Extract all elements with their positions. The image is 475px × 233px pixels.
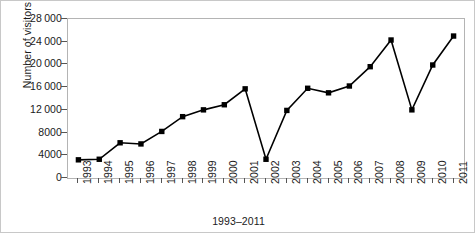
x-tick-label: 2011 (457, 161, 469, 184)
x-tick-label: 1995 (123, 160, 135, 184)
x-tick-label: 1994 (102, 160, 114, 184)
x-tick-label: 1998 (186, 160, 198, 184)
x-tick-label: 1999 (206, 160, 218, 184)
x-tick-label: 2001 (248, 160, 260, 184)
x-tick-label: 1997 (165, 160, 177, 184)
x-tick-label: 2010 (436, 160, 448, 184)
x-tick-label: 2007 (373, 160, 385, 184)
x-tick-label: 2003 (290, 160, 302, 184)
x-tick-label: 2009 (415, 160, 427, 184)
x-tick-label: 2002 (269, 160, 281, 184)
x-tick-label: 1996 (144, 160, 156, 184)
x-tick-label: 2006 (352, 160, 364, 184)
x-tick-label: 2005 (332, 160, 344, 184)
x-tick-label: 1993 (81, 160, 93, 184)
x-axis-tick-labels: 1993199419951996199719981999200020012002… (1, 1, 475, 233)
x-axis-title: 1993–2011 (1, 215, 475, 227)
x-tick-label: 2008 (394, 160, 406, 184)
chart-figure: Number of visitors 04000800012 00016 000… (0, 0, 475, 233)
x-tick-label: 2004 (311, 160, 323, 184)
x-tick-label: 2000 (227, 160, 239, 184)
